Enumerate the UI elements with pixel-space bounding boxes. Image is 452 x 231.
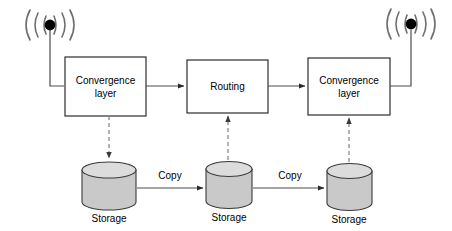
storage-mid-label: Storage xyxy=(211,212,246,223)
link-convergence-right-to-antenna-right xyxy=(390,30,411,86)
diagram-canvas: Convergence layer Routing Convergence la… xyxy=(0,0,452,231)
storage-right-label: Storage xyxy=(331,214,366,225)
convergence-left-label-line1: Convergence xyxy=(76,75,136,86)
node-convergence-layer-right[interactable] xyxy=(308,58,390,115)
link-antenna-left-to-convergence-left xyxy=(50,30,64,86)
convergence-right-label-line1: Convergence xyxy=(319,75,379,86)
copy-label-left: Copy xyxy=(158,170,181,181)
routing-label: Routing xyxy=(210,81,244,92)
node-storage-right[interactable] xyxy=(327,164,372,211)
node-storage-mid[interactable] xyxy=(206,162,252,209)
architecture-diagram: Convergence layer Routing Convergence la… xyxy=(0,0,452,231)
node-storage-left[interactable] xyxy=(82,162,136,210)
copy-label-right: Copy xyxy=(278,170,301,181)
node-convergence-layer-left[interactable] xyxy=(65,57,146,116)
convergence-left-label-line2: layer xyxy=(95,88,117,99)
convergence-right-label-line2: layer xyxy=(338,88,360,99)
storage-left-label: Storage xyxy=(91,213,126,224)
